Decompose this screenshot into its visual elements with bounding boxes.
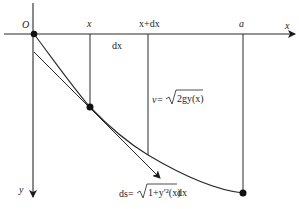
endpoint-a [240, 190, 247, 197]
dx-label: dx [112, 40, 122, 51]
tick-x-label: x [86, 18, 92, 29]
brachistochrone-diagram: O x y x x+dx a dx v= 2gy(x) ds= 1+y′²(x)… [0, 0, 299, 209]
tick-x-plus-dx-label: x+dx [139, 18, 160, 29]
point-x [87, 104, 94, 111]
arc-length-label: ds= [119, 188, 134, 199]
x-axis-label: x [284, 20, 290, 31]
y-axis-label: y [18, 184, 24, 195]
tangent-ds-arrow [34, 52, 160, 178]
arc-length-radicand: 1+y′²(x) [148, 187, 181, 199]
brachistochrone-curve [34, 34, 243, 193]
velocity-label: v= [152, 94, 163, 105]
origin-point [31, 31, 38, 38]
arc-length-dx: dx [177, 187, 187, 198]
tick-a-label: a [239, 18, 244, 29]
origin-label: O [22, 19, 29, 30]
velocity-radicand: 2gy(x) [177, 93, 204, 105]
